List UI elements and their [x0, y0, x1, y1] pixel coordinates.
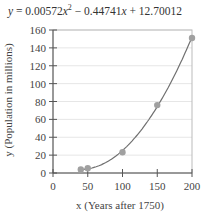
- data-point: [189, 35, 195, 41]
- y-tick-label: 60: [35, 113, 47, 125]
- data-point: [154, 102, 160, 108]
- x-tick-label: 150: [149, 180, 166, 192]
- y-tick-label: 20: [35, 149, 47, 161]
- y-tick-label: 40: [35, 131, 47, 143]
- ticks: 020406080100120140160050100150200: [30, 24, 201, 192]
- y-tick-label: 120: [30, 60, 47, 72]
- y-tick-label: 80: [35, 96, 47, 108]
- x-tick-label: 100: [114, 180, 131, 192]
- x-tick-label: 50: [82, 180, 94, 192]
- data-point: [119, 149, 125, 155]
- y-tick-label: 160: [30, 24, 47, 36]
- data-point: [78, 166, 84, 172]
- data-points: [78, 35, 196, 173]
- y-tick-label: 0: [41, 167, 47, 179]
- x-tick-label: 200: [184, 180, 201, 192]
- y-tick-label: 100: [30, 78, 47, 90]
- chart: 020406080100120140160050100150200 x (Yea…: [0, 0, 209, 216]
- x-tick-label: 0: [50, 180, 56, 192]
- y-axis-label: y (Population in millions): [2, 43, 15, 157]
- x-axis-label: x (Years after 1750): [76, 199, 164, 212]
- fit-curve: [81, 37, 192, 169]
- grid: [53, 30, 192, 155]
- data-point: [85, 165, 91, 171]
- y-tick-label: 140: [30, 42, 47, 54]
